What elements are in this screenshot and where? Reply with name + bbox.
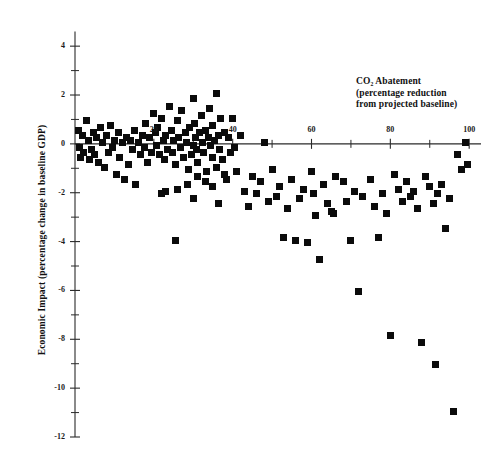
data-point <box>288 176 295 183</box>
data-point <box>383 210 390 217</box>
data-point <box>169 149 176 156</box>
data-point <box>320 181 327 188</box>
data-point <box>340 178 347 185</box>
data-point <box>125 161 132 168</box>
data-point <box>438 181 445 188</box>
data-point <box>324 200 331 207</box>
data-point <box>245 203 252 210</box>
data-point <box>265 198 272 205</box>
y-tick-label: -6 <box>43 285 65 294</box>
data-point <box>174 117 181 124</box>
data-point <box>101 164 108 171</box>
data-point <box>132 181 139 188</box>
data-point <box>190 142 197 149</box>
data-point <box>206 105 213 112</box>
data-point <box>99 139 106 146</box>
data-point <box>127 137 134 144</box>
data-point <box>180 154 187 161</box>
x-tick-label: 100 <box>457 125 481 134</box>
scatter-plot-figure: 20406080100 420-2-4-6-8-10-12 Economic I… <box>0 0 495 467</box>
x-axis-title-line-2: (percentage reduction <box>356 88 495 100</box>
data-point <box>198 112 205 119</box>
data-point <box>300 186 307 193</box>
data-point <box>103 132 110 139</box>
data-point <box>316 256 323 263</box>
data-point <box>391 171 398 178</box>
data-point <box>464 161 471 168</box>
data-point <box>209 183 216 190</box>
data-point <box>371 203 378 210</box>
data-point <box>276 183 283 190</box>
plot-axes-svg <box>0 0 495 467</box>
data-point <box>462 139 469 146</box>
data-point <box>213 90 220 97</box>
data-point <box>194 173 201 180</box>
data-point <box>432 361 439 368</box>
data-point <box>161 156 168 163</box>
data-point <box>312 212 319 219</box>
x-axis-title: CO₂ Abatement (percentage reduction from… <box>356 76 495 111</box>
data-point <box>422 173 429 180</box>
data-point <box>174 186 181 193</box>
data-point <box>150 110 157 117</box>
data-point <box>80 149 87 156</box>
data-point <box>85 137 92 144</box>
data-point <box>162 188 169 195</box>
data-point <box>434 190 441 197</box>
y-tick-label: 4 <box>43 41 65 50</box>
data-point <box>332 173 339 180</box>
data-point <box>310 190 317 197</box>
data-point <box>202 178 209 185</box>
data-point <box>410 188 417 195</box>
data-point <box>191 120 198 127</box>
data-point <box>113 171 120 178</box>
x-tick-label: 20 <box>142 125 166 134</box>
data-point <box>213 164 220 171</box>
data-point <box>190 195 197 202</box>
data-point <box>442 225 449 232</box>
data-point <box>414 205 421 212</box>
data-point <box>367 176 374 183</box>
x-axis-title-line-3: from projected baseline) <box>356 99 495 111</box>
data-point <box>284 205 291 212</box>
x-tick-label: 40 <box>221 125 245 134</box>
data-point <box>200 149 207 156</box>
data-point <box>158 115 165 122</box>
data-point <box>116 154 123 161</box>
data-point <box>216 146 223 153</box>
data-point <box>280 234 287 241</box>
data-point <box>190 95 197 102</box>
data-point <box>261 139 268 146</box>
data-point <box>395 186 402 193</box>
y-tick-label: 0 <box>43 139 65 148</box>
data-point <box>97 124 104 131</box>
data-point <box>418 339 425 346</box>
x-tick-label: 60 <box>300 125 324 134</box>
data-point <box>153 142 160 149</box>
data-point <box>351 188 358 195</box>
data-point <box>185 166 192 173</box>
y-tick-label: -10 <box>43 383 65 392</box>
data-point <box>178 107 185 114</box>
y-tick-label: -8 <box>43 334 65 343</box>
y-tick-label: -12 <box>43 432 65 441</box>
data-point <box>91 151 98 158</box>
data-point <box>168 127 175 134</box>
x-tick-label: 80 <box>378 125 402 134</box>
x-axis-title-line-1: CO₂ Abatement <box>356 76 495 88</box>
data-point <box>273 193 280 200</box>
data-point <box>215 200 222 207</box>
data-point <box>121 176 128 183</box>
data-point <box>166 103 173 110</box>
data-point <box>296 195 303 202</box>
data-point <box>233 168 240 175</box>
data-point <box>184 181 191 188</box>
data-point <box>141 144 148 151</box>
data-point <box>131 127 138 134</box>
data-point <box>109 144 116 151</box>
data-point <box>403 178 410 185</box>
data-point <box>221 171 228 178</box>
data-point <box>355 288 362 295</box>
data-point <box>269 166 276 173</box>
data-point <box>375 234 382 241</box>
